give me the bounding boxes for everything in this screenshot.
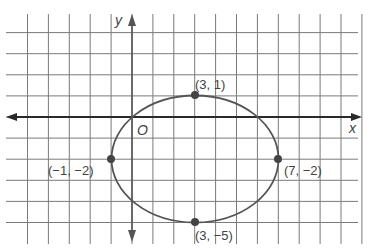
y-axis-label: y (114, 12, 123, 28)
point-label-right: (7, −2) (284, 163, 322, 178)
grid-lines (6, 14, 362, 244)
point-right (274, 155, 282, 163)
point-label-left: (−1, −2) (48, 163, 94, 178)
point-top (191, 91, 199, 99)
x-axis-label: x (348, 120, 357, 136)
x-axis-left-arrow-icon (6, 113, 17, 121)
point-bottom (191, 218, 199, 226)
point-left (107, 155, 115, 163)
point-label-bottom: (3, −5) (195, 228, 233, 243)
y-axis-down-arrow-icon (128, 230, 136, 242)
y-axis-up-arrow-icon (128, 14, 136, 26)
origin-label: O (137, 122, 148, 138)
coordinate-plane: y x O (3, 1) (−1, −2) (7, −2) (3, −5) (0, 0, 373, 250)
point-label-top: (3, 1) (195, 77, 225, 92)
